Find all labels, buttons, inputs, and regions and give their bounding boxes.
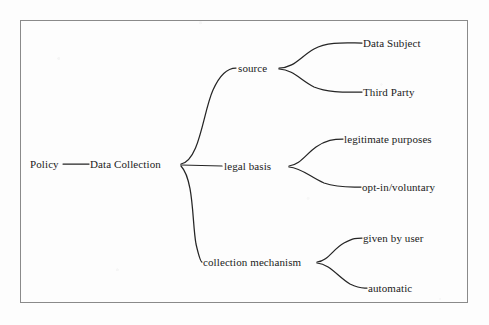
node-third-party[interactable]: Third Party bbox=[363, 87, 415, 98]
edge-data-collection-to-collection-mechanism bbox=[181, 166, 202, 262]
node-given-by-user[interactable]: given by user bbox=[363, 233, 424, 244]
node-legal-basis[interactable]: legal basis bbox=[224, 161, 271, 172]
edge-source-to-third-party bbox=[279, 69, 362, 92]
node-source[interactable]: source bbox=[238, 63, 267, 74]
node-collection-mechanism[interactable]: collection mechanism bbox=[203, 257, 301, 268]
node-policy[interactable]: Policy bbox=[30, 159, 59, 170]
edge-collection-mechanism-to-automatic bbox=[317, 263, 367, 288]
edge-legal-basis-to-legitimate-purposes bbox=[289, 139, 343, 166]
node-opt-in-voluntary[interactable]: opt-in/voluntary bbox=[362, 182, 435, 193]
node-legitimate-purposes[interactable]: legitimate purposes bbox=[344, 134, 432, 145]
edge-collection-mechanism-to-given-by-user bbox=[317, 238, 362, 262]
node-data-collection[interactable]: Data Collection bbox=[90, 159, 161, 170]
edge-data-collection-to-source bbox=[181, 68, 236, 164]
edge-legal-basis-to-opt-in-voluntary bbox=[289, 167, 361, 187]
node-data-subject[interactable]: Data Subject bbox=[363, 38, 421, 49]
node-automatic[interactable]: automatic bbox=[368, 283, 412, 294]
diagram-canvas: Policy Data Collection source legal basi… bbox=[0, 0, 489, 325]
edge-data-collection-to-legal-basis bbox=[181, 165, 222, 166]
edge-source-to-data-subject bbox=[279, 43, 362, 68]
